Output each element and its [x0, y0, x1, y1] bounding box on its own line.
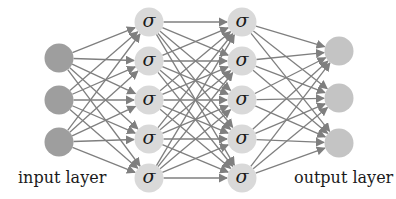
input-node-1	[45, 86, 74, 115]
edge-hidden-2-2-to-output-1	[257, 98, 325, 99]
sigma-activation-symbol: σ	[236, 165, 250, 187]
output-node-circle	[325, 129, 354, 158]
input-node-circle	[45, 86, 74, 115]
hidden-1-node-2: σ	[135, 86, 164, 115]
edge-hidden-2-2-to-output-2	[255, 106, 325, 137]
edge-hidden-2-4-to-output-1	[253, 108, 327, 169]
sigma-activation-symbol: σ	[143, 87, 157, 109]
hidden-2-node-1: σ	[228, 47, 257, 76]
hidden-1-node-0: σ	[135, 8, 164, 37]
hidden-1-node-1: σ	[135, 47, 164, 76]
edge-hidden-2-0-to-output-2	[251, 33, 330, 131]
output-layer-label: output layer	[294, 168, 393, 187]
hidden-2-node-2: σ	[228, 86, 257, 115]
output-node-0	[325, 37, 354, 66]
sigma-activation-symbol: σ	[143, 165, 157, 187]
sigma-activation-symbol: σ	[236, 126, 250, 148]
edge-input-0-to-hidden-1-0	[72, 28, 135, 53]
hidden-2-node-3: σ	[228, 125, 257, 154]
edge-hidden-2-0-to-output-0	[256, 26, 325, 47]
edges-group	[68, 22, 330, 178]
output-node-circle	[325, 84, 354, 113]
hidden-2-node-0: σ	[228, 8, 257, 37]
sigma-activation-symbol: σ	[236, 9, 250, 31]
input-node-0	[45, 44, 74, 73]
input-node-2	[45, 128, 74, 157]
output-node-1	[325, 84, 354, 113]
edge-hidden-2-2-to-output-0	[255, 58, 326, 94]
sigma-activation-symbol: σ	[236, 48, 250, 70]
input-layer-label: input layer	[18, 168, 106, 187]
output-node-2	[325, 129, 354, 158]
sigma-activation-symbol: σ	[143, 48, 157, 70]
hidden-1-node-3: σ	[135, 125, 164, 154]
input-node-circle	[45, 128, 74, 157]
hidden-2-node-4: σ	[228, 164, 257, 193]
edge-input-2-to-hidden-1-3	[73, 140, 134, 142]
sigma-activation-symbol: σ	[236, 87, 250, 109]
edge-hidden-2-3-to-output-2	[256, 140, 324, 143]
hidden-1-node-4: σ	[135, 164, 164, 193]
sigma-activation-symbol: σ	[143, 9, 157, 31]
input-node-circle	[45, 44, 74, 73]
output-node-circle	[325, 37, 354, 66]
edge-input-0-to-hidden-1-1	[73, 58, 134, 60]
sigma-activation-symbol: σ	[143, 126, 157, 148]
